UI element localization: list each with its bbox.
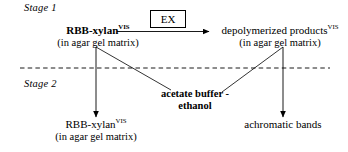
reagent-line-1: acetate buffer -	[161, 88, 229, 99]
reagent-label: acetate buffer - ethanol	[145, 88, 245, 112]
node-products-top: depolymerized productsVIS (in agar gel m…	[212, 24, 348, 49]
stage-2-label: Stage 2	[24, 78, 57, 90]
node-products-top-superscript: VIS	[328, 23, 339, 30]
node-bands-bottom: achromatic bands	[223, 118, 343, 131]
reagent-line-2: ethanol	[178, 100, 211, 111]
node-substrate-bottom-sub: (in agar gel matrix)	[26, 131, 166, 143]
enzyme-box-ex: EX	[150, 10, 186, 28]
process-flow-diagram: Stage 1 Stage 2 RBB-xylanVIS (in agar ge…	[0, 0, 348, 152]
stage-1-label: Stage 1	[24, 2, 57, 14]
reagent-leader-left	[96, 47, 171, 90]
node-products-top-sub: (in agar gel matrix)	[212, 37, 348, 49]
node-substrate-bottom-superscript: VIS	[116, 117, 127, 124]
node-bands-bottom-main: achromatic bands	[223, 118, 343, 131]
reagent-leader-right	[222, 47, 283, 92]
node-substrate-bottom-main: RBB-xylanVIS	[26, 118, 166, 131]
node-products-top-main: depolymerized productsVIS	[212, 24, 348, 37]
node-substrate-top-sub: (in agar gel matrix)	[0, 37, 196, 49]
node-substrate-top-superscript: VIS	[118, 23, 129, 30]
node-substrate-bottom: RBB-xylanVIS (in agar gel matrix)	[26, 118, 166, 143]
